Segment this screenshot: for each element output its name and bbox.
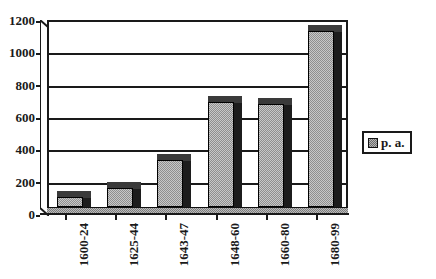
x-axis-tick-mark — [266, 214, 268, 220]
bar-front-face — [258, 104, 284, 207]
bar-front-face — [208, 102, 234, 207]
x-axis-tick-label: 1680-99 — [327, 223, 343, 266]
bar-side-face — [284, 104, 292, 207]
bar-front-face — [57, 197, 83, 207]
x-axis-tick-mark — [216, 214, 218, 220]
x-axis-tick-mark — [65, 214, 67, 220]
y-axis-tick-value: 400 — [16, 142, 36, 157]
bar-side-face — [183, 160, 191, 207]
x-axis-tick-label: 1643-47 — [176, 223, 192, 266]
x-axis-tick-label: 1625-44 — [126, 223, 142, 266]
bar — [208, 102, 242, 214]
x-axis-tick-mark — [165, 214, 167, 220]
x-axis-tick-label: 1660-80 — [277, 223, 293, 266]
x-axis-tick-mark — [115, 214, 117, 220]
bar-side-face — [234, 102, 242, 207]
y-axis-tick-value: 800 — [16, 78, 36, 93]
bar — [308, 31, 342, 214]
y-axis: 020040060080010001200 — [4, 0, 40, 279]
y-axis-tick-label: 800 — [4, 79, 40, 92]
y-axis-tick-label: 0 — [4, 208, 40, 221]
bar-chart: 020040060080010001200 1600-241625-441643… — [0, 0, 436, 279]
y-axis-tick-label: 1000 — [4, 46, 40, 59]
x-axis-tick-mark — [316, 214, 318, 220]
bar — [57, 197, 91, 214]
bar — [258, 104, 292, 214]
bar-front-face — [308, 31, 334, 207]
bar-front-face — [157, 160, 183, 207]
y-axis-tick-label: 1200 — [4, 14, 40, 27]
y-axis-tick-label: 400 — [4, 143, 40, 156]
gray-square-swatch-icon — [368, 138, 378, 148]
y-axis-tick-label: 200 — [4, 176, 40, 189]
bar — [157, 160, 191, 214]
y-axis-tick-value: 200 — [16, 175, 36, 190]
y-axis-tick-value: 1200 — [9, 13, 35, 28]
x-axis-tick-label: 1600-24 — [76, 223, 92, 266]
y-axis-tick-value: 600 — [16, 110, 36, 125]
bar-side-face — [133, 188, 141, 207]
legend: p. a. — [362, 131, 412, 154]
legend-entry-label: p. a. — [381, 136, 404, 149]
bar-front-face — [107, 188, 133, 207]
bar-side-face — [334, 31, 342, 207]
y-axis-tick-value: 0 — [29, 207, 36, 222]
bar — [107, 188, 141, 214]
bars-layer — [47, 20, 348, 214]
bar-side-face — [83, 197, 91, 207]
y-axis-tick-label: 600 — [4, 111, 40, 124]
x-axis-tick-label: 1648-60 — [227, 223, 243, 266]
y-axis-tick-value: 1000 — [9, 45, 35, 60]
x-axis-line — [40, 213, 349, 215]
